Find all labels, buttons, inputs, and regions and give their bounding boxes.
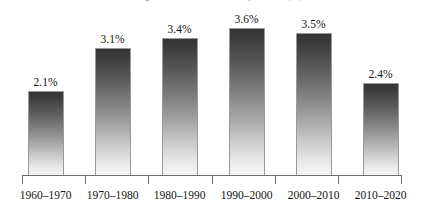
bar-chart: Average Annual Growth Rate by Decade (%)… bbox=[0, 0, 424, 212]
bar-value-label: 2.4% bbox=[369, 68, 393, 80]
x-axis-tick bbox=[275, 175, 276, 184]
bar-value-label: 3.5% bbox=[302, 18, 326, 30]
bar-group: 3.5% bbox=[280, 0, 347, 176]
plot-area: 2.1% 3.1% 3.4% 3.6% 3.5% 2.4% bbox=[0, 0, 424, 176]
bar-group: 3.6% bbox=[213, 0, 280, 176]
x-axis-tick-label: 2010–2020 bbox=[347, 188, 414, 203]
x-axis-tick bbox=[148, 175, 149, 184]
bar-group: 2.4% bbox=[347, 0, 414, 176]
bar[interactable] bbox=[28, 91, 64, 176]
bar-value-label: 3.6% bbox=[235, 13, 259, 25]
x-axis-tick bbox=[401, 175, 402, 184]
x-axis-tick bbox=[85, 175, 86, 184]
x-axis-tick bbox=[212, 175, 213, 184]
x-axis-tick-label: 1960–1970 bbox=[12, 188, 79, 203]
bar[interactable] bbox=[229, 28, 265, 176]
bar[interactable] bbox=[363, 83, 399, 176]
x-axis-tick bbox=[338, 175, 339, 184]
bar-group: 3.1% bbox=[79, 0, 146, 176]
bar[interactable] bbox=[95, 48, 131, 176]
bar[interactable] bbox=[162, 38, 198, 176]
x-axis-labels: 1960–1970 1970–1980 1980–1990 1990–2000 … bbox=[0, 188, 424, 206]
x-axis-tick-label: 1970–1980 bbox=[79, 188, 146, 203]
bar-value-label: 2.1% bbox=[34, 76, 58, 88]
bar-value-label: 3.1% bbox=[101, 33, 125, 45]
bar-group: 2.1% bbox=[12, 0, 79, 176]
bar[interactable] bbox=[296, 33, 332, 176]
bar-group: 3.4% bbox=[146, 0, 213, 176]
x-axis-tick bbox=[22, 175, 23, 184]
x-axis-tick-label: 2000–2010 bbox=[280, 188, 347, 203]
x-axis-tick-label: 1990–2000 bbox=[213, 188, 280, 203]
bar-value-label: 3.4% bbox=[168, 23, 192, 35]
x-axis-tick-label: 1980–1990 bbox=[146, 188, 213, 203]
